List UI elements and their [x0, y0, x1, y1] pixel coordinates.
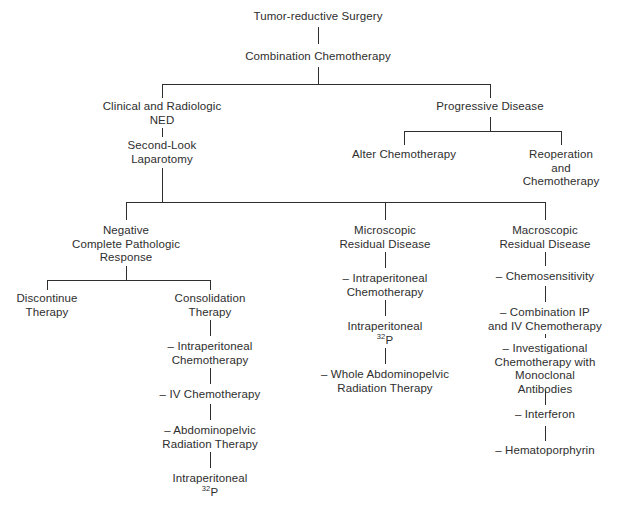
node-line: Reoperation — [523, 148, 600, 162]
connector-horizontal — [47, 280, 210, 281]
node-line: Consolidation — [175, 292, 246, 306]
node-macro_combination_ip_iv: – Combination IPand IV Chemotherapy — [488, 306, 602, 333]
node-line: Complete Pathologic — [72, 238, 180, 252]
node-macro_chemosensitivity: – Chemosensitivity — [496, 270, 594, 284]
node-line: 32P — [347, 334, 422, 348]
node-line: Therapy — [16, 306, 77, 320]
connector-vertical — [490, 84, 491, 98]
node-line: Combination Chemotherapy — [245, 50, 391, 64]
connector-vertical — [210, 368, 211, 384]
node-negative_complete_pathologic_response: NegativeComplete PathologicResponse — [72, 224, 180, 265]
node-line: – Interferon — [515, 408, 575, 422]
connector-vertical — [545, 334, 546, 338]
node-line: Macroscopic — [499, 224, 590, 238]
connector-vertical — [545, 286, 546, 302]
node-line: Monoclonal — [495, 369, 596, 383]
connector-vertical — [126, 202, 127, 220]
node-line: Residual Disease — [499, 238, 590, 252]
node-line: NED — [103, 114, 222, 128]
connector-vertical — [318, 27, 319, 44]
node-line: Progressive Disease — [436, 100, 543, 114]
connector-vertical — [162, 128, 163, 137]
connector-vertical — [210, 452, 211, 468]
connector-vertical — [404, 131, 405, 145]
node-macro_hematoporphyrin: – Hematoporphyrin — [495, 444, 595, 458]
connector-vertical — [210, 404, 211, 420]
node-consolidation_intraperitoneal_chemo: – IntraperitonealChemotherapy — [168, 340, 253, 367]
node-line: Radiation Therapy — [321, 382, 449, 396]
node-line: Clinical and Radiologic — [103, 100, 222, 114]
node-reoperation_and_chemotherapy: ReoperationandChemotherapy — [523, 148, 600, 189]
connector-vertical — [318, 67, 319, 84]
superscript: 32 — [202, 484, 211, 493]
node-line: – Investigational — [495, 342, 596, 356]
connector-vertical — [385, 348, 386, 364]
node-line: and — [523, 162, 600, 176]
connector-vertical — [210, 280, 211, 290]
node-consolidation_iv_chemo: – IV Chemotherapy — [160, 388, 261, 402]
node-line: Chemotherapy — [523, 175, 600, 189]
node-consolidation_abdominopelvic_radiation: – AbdominopelvicRadiation Therapy — [162, 424, 257, 451]
node-line: Residual Disease — [339, 238, 430, 252]
connector-vertical — [162, 84, 163, 98]
node-discontinue_therapy: DiscontinueTherapy — [16, 292, 77, 319]
node-line: – Intraperitoneal — [168, 340, 253, 354]
node-line: – Hematoporphyrin — [495, 444, 595, 458]
connector-vertical — [385, 300, 386, 316]
node-consolidation_therapy: ConsolidationTherapy — [175, 292, 246, 319]
connector-vertical — [47, 280, 48, 290]
node-line: Laparotomy — [128, 153, 197, 167]
node-consolidation_intraperitoneal_p32: Intraperitoneal32P — [172, 472, 247, 499]
node-line: – IV Chemotherapy — [160, 388, 261, 402]
connector-vertical — [210, 320, 211, 336]
node-line: Response — [72, 251, 180, 265]
connector-horizontal — [126, 202, 545, 203]
node-line: Antibodies — [495, 383, 596, 397]
node-macroscopic_residual_disease: MacroscopicResidual Disease — [499, 224, 590, 251]
node-line: – Whole Abdominopelvic — [321, 368, 449, 382]
node-micro_intraperitoneal_chemo: – IntraperitonealChemotherapy — [343, 272, 428, 299]
node-progressive_disease: Progressive Disease — [436, 100, 543, 114]
node-line: – Chemosensitivity — [496, 270, 594, 284]
node-line: Radiation Therapy — [162, 438, 257, 452]
node-micro_intraperitoneal_p32: Intraperitoneal32P — [347, 320, 422, 347]
node-line: Therapy — [175, 306, 246, 320]
connector-vertical — [545, 426, 546, 441]
node-second_look_laparotomy: Second-LookLaparotomy — [128, 139, 197, 166]
node-alter_chemotherapy: Alter Chemotherapy — [352, 148, 456, 162]
connector-horizontal — [404, 131, 561, 132]
node-line: Chemotherapy — [343, 286, 428, 300]
connector-vertical — [385, 202, 386, 220]
connector-vertical — [545, 202, 546, 220]
node-line: Alter Chemotherapy — [352, 148, 456, 162]
node-line: 32P — [172, 486, 247, 500]
connector-vertical — [162, 168, 163, 202]
flowchart-canvas: Tumor-reductive SurgeryCombination Chemo… — [0, 0, 634, 508]
connector-vertical — [126, 266, 127, 280]
node-micro_whole_abdominopelvic_radiation: – Whole AbdominopelvicRadiation Therapy — [321, 368, 449, 395]
connector-vertical — [490, 117, 491, 131]
node-tumor_reductive_surgery: Tumor-reductive Surgery — [253, 10, 382, 24]
node-line: Discontinue — [16, 292, 77, 306]
node-line: Chemotherapy — [168, 354, 253, 368]
connector-vertical — [561, 131, 562, 145]
node-line: Negative — [72, 224, 180, 238]
connector-horizontal — [162, 84, 490, 85]
superscript: 32 — [377, 332, 386, 341]
node-line: – Abdominopelvic — [162, 424, 257, 438]
node-microscopic_residual_disease: MicroscopicResidual Disease — [339, 224, 430, 251]
node-macro_investigational_chemo_mabs: – InvestigationalChemotherapy withMonocl… — [495, 342, 596, 396]
connector-vertical — [545, 252, 546, 266]
node-line: Chemotherapy with — [495, 356, 596, 370]
node-line: – Intraperitoneal — [343, 272, 428, 286]
node-macro_interferon: – Interferon — [515, 408, 575, 422]
node-line: Microscopic — [339, 224, 430, 238]
node-line: Second-Look — [128, 139, 197, 153]
connector-vertical — [385, 252, 386, 268]
node-line: Tumor-reductive Surgery — [253, 10, 382, 24]
node-combination_chemotherapy: Combination Chemotherapy — [245, 50, 391, 64]
node-line: and IV Chemotherapy — [488, 320, 602, 334]
node-line: – Combination IP — [488, 306, 602, 320]
node-clinical_radiologic_ned: Clinical and RadiologicNED — [103, 100, 222, 127]
